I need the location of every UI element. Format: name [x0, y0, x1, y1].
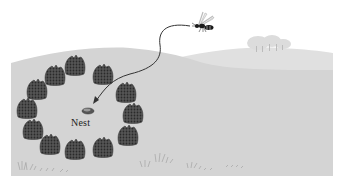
- wasp-nest-diagram: [0, 0, 341, 184]
- wasp-icon: [192, 12, 214, 32]
- nest-label: Nest: [71, 117, 90, 128]
- nest-hole-icon: [82, 108, 94, 114]
